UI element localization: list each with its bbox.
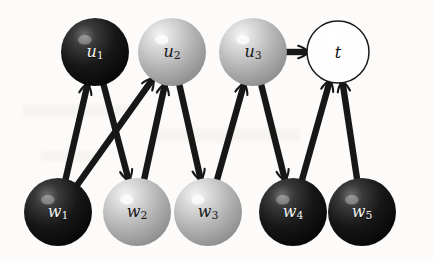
node-specular-highlight: [78, 35, 92, 45]
node-specular-highlight: [276, 195, 290, 205]
node-u3[interactable]: [219, 18, 287, 86]
edge-w5-t: [342, 81, 357, 182]
edge-w1-u1: [65, 83, 88, 182]
edge-w3-u3: [216, 83, 244, 182]
node-specular-highlight: [41, 195, 55, 205]
node-t[interactable]: [307, 21, 369, 83]
node-specular-highlight: [120, 195, 134, 205]
node-layer: [24, 18, 396, 246]
node-u1[interactable]: [61, 18, 129, 86]
figure-canvas: u1u2u3tw1w2w3w4w5: [0, 0, 433, 261]
node-w5[interactable]: [328, 178, 396, 246]
node-specular-highlight: [191, 195, 205, 205]
node-specular-highlight: [155, 35, 169, 45]
edge-w2-u2: [144, 83, 166, 181]
node-specular-highlight: [236, 35, 250, 45]
node-w2[interactable]: [103, 178, 171, 246]
node-w4[interactable]: [259, 178, 327, 246]
node-w3[interactable]: [174, 178, 242, 246]
node-w1[interactable]: [24, 178, 92, 246]
edge-u3-w4: [261, 82, 286, 181]
node-specular-highlight: [345, 195, 359, 205]
edge-u1-w2: [103, 82, 129, 181]
edge-w4-t: [301, 80, 330, 182]
graph-svg: [0, 0, 433, 261]
node-u2[interactable]: [138, 18, 206, 86]
edge-u2-w3: [179, 82, 201, 181]
